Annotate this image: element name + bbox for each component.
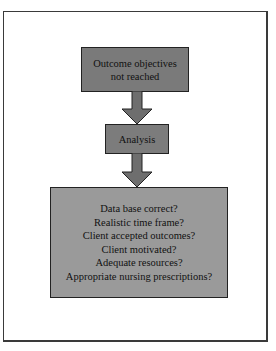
evaluation-questions-node: Data base correct? Realistic time frame?… [50, 187, 228, 298]
question-text: Realistic time frame? [94, 216, 184, 230]
arrow-shape [122, 91, 152, 124]
node-text: not reached [111, 70, 160, 83]
analysis-node: Analysis [105, 124, 169, 154]
node-text: Analysis [119, 134, 156, 145]
node-text: Outcome objectives [93, 57, 177, 70]
outcome-objectives-node: Outcome objectives not reached [81, 47, 189, 92]
question-text: Client motivated? [102, 243, 177, 257]
arrow-shape [122, 153, 152, 187]
question-text: Adequate resources? [95, 256, 182, 270]
question-text: Data base correct? [100, 202, 178, 216]
arrow-analysis-to-questions [120, 153, 154, 188]
question-text: Client accepted outcomes? [83, 229, 196, 243]
arrow-outcome-to-analysis [120, 91, 154, 125]
question-text: Appropriate nursing prescriptions? [66, 270, 212, 284]
